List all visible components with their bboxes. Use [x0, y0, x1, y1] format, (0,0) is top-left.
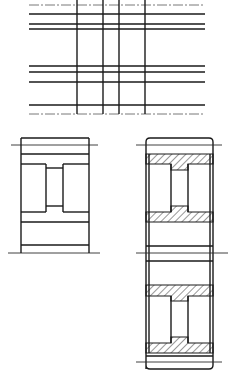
hatched-web-lower-top	[146, 285, 213, 301]
grid-view	[29, 0, 205, 114]
hatched-web-upper-bottom	[146, 206, 213, 222]
hatched-section-view	[136, 138, 228, 369]
hatched-web-upper-top	[146, 154, 213, 170]
hatched-web-lower-bottom	[146, 337, 213, 353]
plain-section-view	[8, 138, 100, 253]
technical-drawing	[0, 0, 237, 372]
